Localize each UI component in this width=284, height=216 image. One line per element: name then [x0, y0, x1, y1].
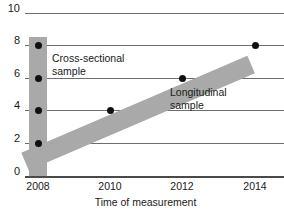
x-tick-label-2014: 2014: [231, 181, 279, 192]
annotation-cross-sectional: Cross-sectional sample: [52, 52, 157, 78]
y-tick-label-4: 4: [0, 100, 20, 111]
data-point: [179, 75, 186, 82]
data-point: [35, 107, 42, 114]
gridline-10: [25, 13, 284, 14]
y-tick-label-8: 8: [0, 35, 20, 46]
gridline-8: [25, 45, 284, 46]
y-tick-label-10: 10: [0, 3, 20, 14]
data-point: [107, 107, 114, 114]
plot-area: 10 8 6 4 2 0 Cross-sectional sample Long…: [0, 0, 284, 216]
x-tick-label-2012: 2012: [158, 181, 206, 192]
x-tick-label-2010: 2010: [86, 181, 134, 192]
data-point: [35, 75, 42, 82]
data-point: [252, 42, 259, 49]
data-point: [35, 140, 42, 147]
gridline-6: [25, 78, 284, 79]
annotation-longitudinal: Longitudinal sample: [170, 86, 265, 112]
data-point: [35, 42, 42, 49]
y-tick-label-6: 6: [0, 68, 20, 79]
x-axis-title: Time of measurement: [16, 196, 275, 208]
y-tick-label-0: 0: [0, 166, 20, 177]
chart-figure: 10 8 6 4 2 0 Cross-sectional sample Long…: [0, 0, 284, 216]
y-tick-label-2: 2: [0, 133, 20, 144]
x-axis-line: [25, 176, 284, 178]
x-tick-label-2008: 2008: [14, 181, 62, 192]
